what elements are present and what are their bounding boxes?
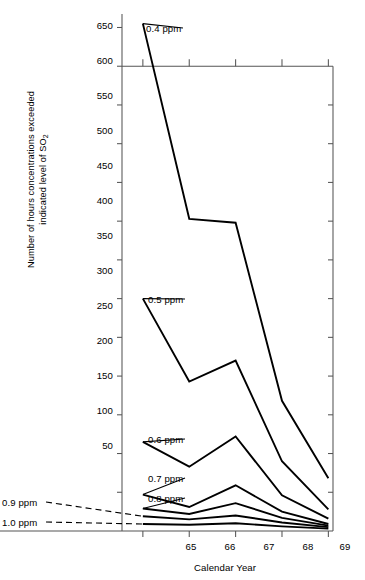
leader-0.4ppm (143, 24, 183, 28)
leader-0.7ppm (143, 478, 185, 495)
leader-1.0ppm-dashed (46, 522, 143, 524)
series-line-0.4-ppm (143, 24, 328, 479)
leader-0.6ppm (143, 439, 185, 442)
leader-0.9ppm-dashed (46, 502, 143, 516)
chart-canvas: Number of hours concentrations exceededi… (0, 0, 365, 580)
series-line-0.6-ppm (143, 436, 328, 518)
chart-plot-svg (0, 0, 365, 580)
series-line-0.8-ppm (143, 503, 328, 525)
series-line-0.5-ppm (143, 299, 328, 510)
